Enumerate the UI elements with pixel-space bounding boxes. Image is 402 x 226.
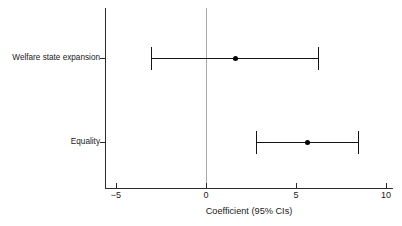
confidence-interval-upper-cap bbox=[358, 131, 359, 154]
x-axis-spine bbox=[105, 188, 393, 189]
zero-reference-line bbox=[206, 8, 207, 189]
y-axis-tick-mark bbox=[100, 58, 105, 59]
x-axis-tick-label: −5 bbox=[96, 190, 136, 201]
x-axis-tick-label: 10 bbox=[366, 190, 402, 201]
x-axis-tick-mark bbox=[386, 183, 387, 189]
confidence-interval-upper-cap bbox=[318, 47, 319, 70]
confidence-interval-lower-cap bbox=[151, 47, 152, 70]
x-axis-tick-mark bbox=[296, 183, 297, 189]
category-label-equality: Equality bbox=[71, 137, 100, 147]
x-axis-tick-label: 0 bbox=[186, 190, 226, 201]
category-label-welfare-state-expansion: Welfare state expansion bbox=[12, 53, 100, 63]
y-axis-tick-mark bbox=[100, 142, 105, 143]
forest-plot-figure: −5 0 5 10 Welfare state expansion Equali… bbox=[0, 0, 402, 226]
coefficient-point-marker bbox=[233, 56, 238, 61]
x-axis-tick-mark bbox=[116, 183, 117, 189]
coefficient-point-marker bbox=[305, 140, 310, 145]
x-axis-title: Coefficient (95% CIs) bbox=[105, 206, 393, 216]
x-axis-tick-mark bbox=[206, 183, 207, 189]
y-axis-spine bbox=[105, 8, 106, 189]
confidence-interval-lower-cap bbox=[256, 131, 257, 154]
x-axis-tick-label: 5 bbox=[276, 190, 316, 201]
